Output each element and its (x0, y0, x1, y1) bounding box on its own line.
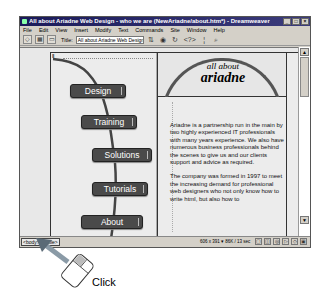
split-view-button[interactable]: ▦ (35, 35, 44, 44)
nav-column: Ⅱ Design Training Solutions Tutorials Ab… (51, 53, 157, 239)
code-navigation-icon[interactable]: <?> (183, 36, 197, 43)
preview-in-browser-icon[interactable]: ◉ (159, 36, 168, 44)
header-line-2: ariadne (158, 70, 288, 86)
nav-tutorials-button[interactable]: Tutorials (92, 182, 148, 196)
paragraph-2: The company was formed in 1997 to meet t… (170, 173, 284, 203)
content-box: Ariadne is a partnership run in the main… (157, 97, 287, 239)
mouse-icon (60, 253, 95, 289)
nav-training-button[interactable]: Training (81, 115, 137, 129)
menu-commands[interactable]: Commands (135, 26, 163, 34)
design-view-page: Ⅱ Design Training Solutions Tutorials Ab… (50, 52, 298, 238)
status-bar: <body> <table> 606 x 391 ▾ 86K / 13 sec … (20, 236, 310, 247)
menu-help[interactable]: Help (213, 26, 224, 34)
paragraph-1: Ariadne is a partnership run in the main… (170, 122, 284, 166)
window-size-and-download-info[interactable]: 606 x 391 ▾ 86K / 13 sec (200, 239, 250, 245)
history-icon[interactable]: ▣ (300, 238, 307, 245)
dreamweaver-window: All about Ariadne Web Design - who we ar… (19, 16, 311, 248)
launcher-bar: ▢ ◫ ◎ ▷ ◇ ▣ (255, 238, 307, 245)
nav-design-button[interactable]: Design (70, 84, 126, 98)
minimize-button[interactable]: _ (283, 18, 291, 25)
window-controls: _ □ × (283, 18, 309, 25)
menu-text[interactable]: Text (118, 26, 128, 34)
scroll-up-arrow-icon[interactable]: ▲ (300, 48, 309, 56)
behaviors-icon[interactable]: ◇ (291, 238, 298, 245)
view-options-icon[interactable]: ¦ (200, 36, 209, 43)
assets-icon[interactable]: ◫ (264, 238, 271, 245)
menu-modify[interactable]: Modify (95, 26, 111, 34)
window-title: All about Ariadne Web Design - who we ar… (29, 17, 270, 26)
menu-edit[interactable]: Edit (39, 26, 48, 34)
header-banner: all about ariadne (157, 53, 287, 97)
vertical-scrollbar[interactable]: ▲ ▼ (298, 47, 310, 236)
close-button[interactable]: × (301, 18, 309, 25)
document-area: Ⅱ Design Training Solutions Tutorials Ab… (20, 47, 310, 236)
html-styles-icon[interactable]: ◎ (273, 238, 280, 245)
title-bar: All about Ariadne Web Design - who we ar… (20, 17, 310, 26)
menu-bar: File Edit View Insert Modify Text Comman… (20, 26, 310, 34)
page-title-input[interactable]: All about Ariadne Web Design - w (76, 36, 144, 44)
menu-window[interactable]: Window (187, 26, 207, 34)
refresh-icon[interactable]: ↻ (171, 36, 180, 44)
maximize-button[interactable]: □ (292, 18, 300, 25)
scroll-down-arrow-icon[interactable]: ▼ (300, 216, 309, 224)
document-toolbar: ◇ ▦ ▭ Title: All about Ariadne Web Desig… (20, 34, 310, 46)
click-label: Click (92, 276, 116, 288)
body-text[interactable]: Ariadne is a partnership run in the main… (170, 122, 284, 210)
scroll-thumb[interactable] (300, 57, 309, 97)
file-management-icon[interactable]: ⇅ (147, 36, 156, 44)
menu-insert[interactable]: Insert (74, 26, 88, 34)
tag-selector[interactable]: <body> <table> (21, 238, 60, 246)
design-view-button[interactable]: ▭ (47, 35, 56, 44)
menu-view[interactable]: View (55, 26, 67, 34)
dreamweaver-app-icon (22, 19, 27, 24)
code-view-button[interactable]: ◇ (23, 35, 32, 44)
content-column: all about ariadne Ariadne is a partnersh… (157, 53, 299, 239)
menu-file[interactable]: File (23, 26, 32, 34)
zoom-icon[interactable]: ⌕ (212, 36, 221, 44)
menu-site[interactable]: Site (170, 26, 179, 34)
nav-curve-decoration (51, 53, 157, 239)
css-styles-icon[interactable]: ▷ (282, 238, 289, 245)
site-icon[interactable]: ▢ (255, 238, 262, 245)
nav-about-button[interactable]: About (81, 215, 143, 229)
title-label: Title: (61, 37, 73, 43)
nav-solutions-button[interactable]: Solutions (92, 148, 152, 162)
